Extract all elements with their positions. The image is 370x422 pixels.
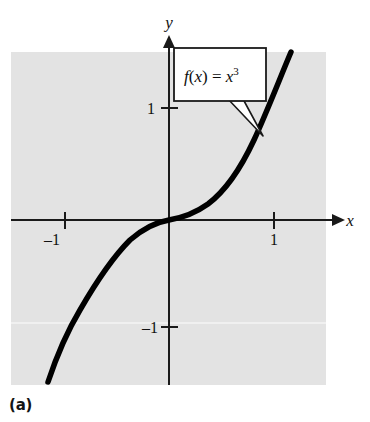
cubic-function-plot: –1 1 1 –1 x y f(x) = x3 [0, 0, 370, 422]
y-axis-arrowhead [163, 35, 175, 48]
x-tick-label-1: 1 [270, 231, 278, 248]
figure-container: –1 1 1 –1 x y f(x) = x3 (a) [0, 0, 370, 422]
y-axis-label: y [163, 13, 173, 32]
figure-caption: (a) [9, 396, 32, 414]
callout-equals: = [208, 67, 226, 86]
x-axis-label: x [345, 211, 354, 230]
y-tick-label-minus-1: –1 [141, 319, 158, 336]
x-axis-arrowhead [332, 214, 345, 226]
x-tick-label-minus-1: –1 [43, 231, 60, 248]
y-tick-label-1: 1 [147, 100, 155, 117]
callout-exponent: 3 [233, 65, 239, 77]
callout-formula: f(x) = x3 [184, 65, 239, 86]
